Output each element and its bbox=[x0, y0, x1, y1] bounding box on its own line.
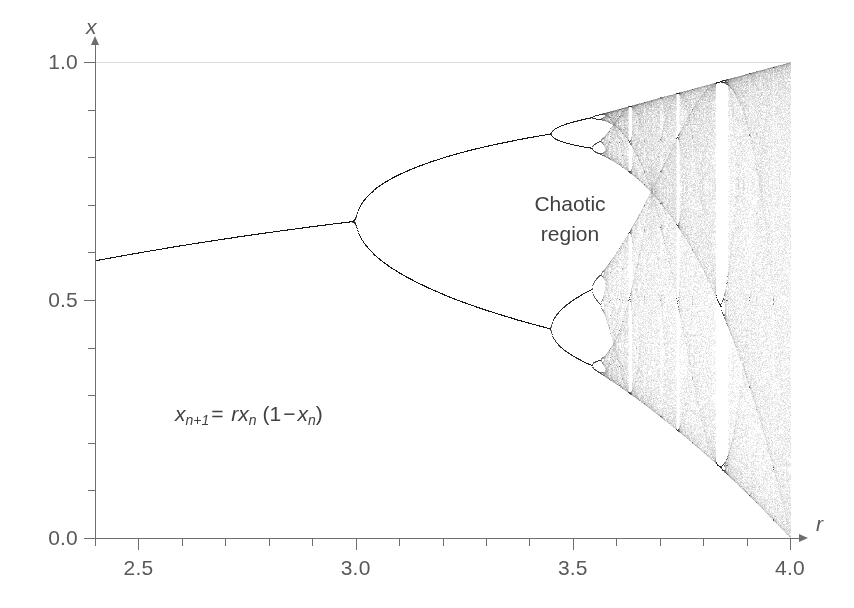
x-axis-tick bbox=[573, 539, 574, 550]
y-axis-tick bbox=[88, 443, 95, 444]
x-axis-tick-label: 3.5 bbox=[558, 556, 588, 580]
equation-rhs-variable-2: x bbox=[297, 402, 308, 425]
x-axis-tick-label: 4.0 bbox=[775, 556, 805, 580]
chaotic-region-annotation: Chaotic region bbox=[500, 189, 640, 249]
x-axis-tick bbox=[95, 539, 96, 546]
logistic-map-equation: xn+1= rxn (1−xn) bbox=[175, 402, 323, 426]
y-axis-tick bbox=[88, 252, 95, 253]
x-axis-tick bbox=[616, 539, 617, 546]
y-axis-tick bbox=[84, 62, 95, 63]
x-axis-tick-label: 3.0 bbox=[341, 556, 371, 580]
y-axis-tick bbox=[88, 348, 95, 349]
x-axis-arrow-icon bbox=[799, 534, 808, 542]
equation-minus-sign: − bbox=[281, 402, 297, 425]
y-axis-tick-label: 0.5 bbox=[48, 288, 78, 312]
x-axis-tick bbox=[703, 539, 704, 546]
equation-close-paren: ) bbox=[316, 402, 323, 425]
chaotic-region-line-1: Chaotic bbox=[500, 189, 640, 219]
x-axis-tick bbox=[138, 539, 139, 550]
y-axis-tick bbox=[88, 395, 95, 396]
bifurcation-diagram-figure: 0.00.51.02.53.03.54.0 x r Chaotic region… bbox=[0, 0, 854, 608]
x-axis-tick bbox=[182, 539, 183, 546]
y-axis-tick bbox=[88, 110, 95, 111]
equation-lhs-variable: x bbox=[175, 402, 186, 425]
equation-equals-sign: = bbox=[209, 402, 225, 425]
x-axis-tick bbox=[790, 539, 791, 550]
x-axis-tick bbox=[660, 539, 661, 546]
y-axis-tick-label: 1.0 bbox=[48, 50, 78, 74]
equation-rhs-subscript: n bbox=[249, 412, 257, 428]
equation-rhs-subscript-2: n bbox=[308, 412, 316, 428]
bifurcation-plot-canvas bbox=[0, 0, 854, 608]
y-axis-tick bbox=[88, 490, 95, 491]
x-axis-tick bbox=[269, 539, 270, 546]
equation-lhs-subscript: n+1 bbox=[186, 412, 210, 428]
x-axis-tick bbox=[399, 539, 400, 546]
y-axis-line bbox=[95, 44, 96, 539]
y-axis-tick bbox=[88, 157, 95, 158]
equation-rhs-variable: x bbox=[238, 402, 249, 425]
x-axis-tick bbox=[747, 539, 748, 546]
x-axis-tick bbox=[443, 539, 444, 546]
x-axis-tick bbox=[356, 539, 357, 550]
y-axis-tick-label: 0.0 bbox=[48, 526, 78, 550]
x-axis-tick bbox=[312, 539, 313, 546]
y-axis-title: x bbox=[86, 15, 97, 39]
y-axis-tick bbox=[84, 538, 95, 539]
x-axis-tick bbox=[529, 539, 530, 546]
chaotic-region-line-2: region bbox=[500, 219, 640, 249]
equation-open-paren: (1 bbox=[263, 402, 282, 425]
x-axis-tick bbox=[486, 539, 487, 546]
x-axis-title: r bbox=[816, 512, 823, 536]
x-axis-line bbox=[95, 538, 801, 539]
y-axis-tick bbox=[88, 205, 95, 206]
y-axis-tick bbox=[84, 300, 95, 301]
x-axis-tick-label: 2.5 bbox=[124, 556, 154, 580]
x-axis-tick bbox=[225, 539, 226, 546]
